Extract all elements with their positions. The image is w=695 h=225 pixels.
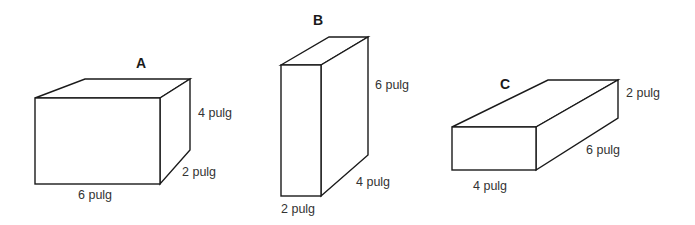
box-a-depth-label: 2 pulg [182, 165, 216, 179]
box-c-front-face [452, 127, 536, 170]
box-a-height-label: 4 pulg [198, 106, 232, 120]
box-c-width-label: 4 pulg [473, 179, 507, 193]
box-b-front-face [281, 65, 321, 196]
prism-diagram: A 4 pulg 2 pulg 6 pulg B 6 pulg 4 pulg 2… [0, 0, 695, 225]
box-b: B 6 pulg 4 pulg 2 pulg [281, 12, 409, 216]
box-b-height-label: 6 pulg [375, 78, 409, 92]
box-a: A 4 pulg 2 pulg 6 pulg [35, 55, 232, 202]
box-a-title: A [136, 55, 146, 71]
box-b-side-face [321, 37, 368, 196]
box-a-front-face [35, 98, 160, 184]
box-c-title: C [500, 76, 510, 92]
box-b-width-label: 2 pulg [281, 202, 315, 216]
box-c-depth-label: 6 pulg [586, 143, 620, 157]
box-c: C 2 pulg 6 pulg 4 pulg [452, 76, 660, 193]
box-a-width-label: 6 pulg [78, 188, 112, 202]
box-b-title: B [313, 12, 323, 28]
box-b-depth-label: 4 pulg [356, 175, 390, 189]
box-c-height-label: 2 pulg [626, 86, 660, 100]
